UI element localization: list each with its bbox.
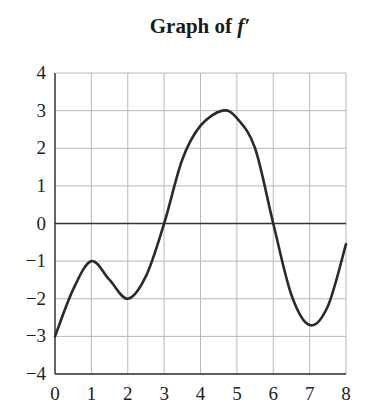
- y-tick-label: 3: [37, 100, 47, 121]
- x-tick-label: 6: [269, 383, 279, 404]
- y-tick-label: 0: [37, 213, 47, 234]
- y-tick-label: −3: [26, 325, 46, 346]
- y-tick-label: −4: [26, 363, 47, 384]
- x-tick-label: 0: [50, 383, 60, 404]
- y-tick-label: 2: [37, 137, 47, 158]
- x-tick-label: 4: [196, 383, 206, 404]
- x-tick-label: 3: [159, 383, 169, 404]
- y-tick-label: −2: [26, 288, 46, 309]
- x-tick-label: 8: [341, 383, 351, 404]
- y-tick-label: −1: [26, 250, 46, 271]
- y-tick-label: 4: [37, 62, 47, 83]
- x-tick-label: 1: [87, 383, 97, 404]
- plot-area: 012345678 43210−1−2−3−4: [0, 0, 370, 420]
- y-tick-label: 1: [37, 175, 47, 196]
- y-axis-ticks: 43210−1−2−3−4: [26, 62, 47, 384]
- x-axis-ticks: 012345678: [50, 383, 351, 404]
- x-tick-label: 7: [305, 383, 315, 404]
- x-tick-label: 5: [232, 383, 242, 404]
- x-tick-label: 2: [123, 383, 133, 404]
